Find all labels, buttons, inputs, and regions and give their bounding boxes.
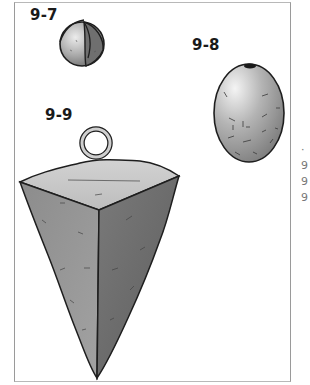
cropped-edge-text: · 9 9 9 — [301, 142, 310, 206]
edge-fragment: 9 — [301, 174, 310, 190]
pyramid-sinker-9-9 — [20, 129, 179, 378]
edge-fragment: 9 — [301, 158, 310, 174]
split-sinker-9-7 — [60, 20, 104, 66]
edge-fragment: · — [301, 142, 310, 158]
edge-fragment: 9 — [301, 190, 310, 206]
sinker-illustrations — [0, 0, 310, 385]
egg-sinker-9-8 — [214, 64, 284, 162]
